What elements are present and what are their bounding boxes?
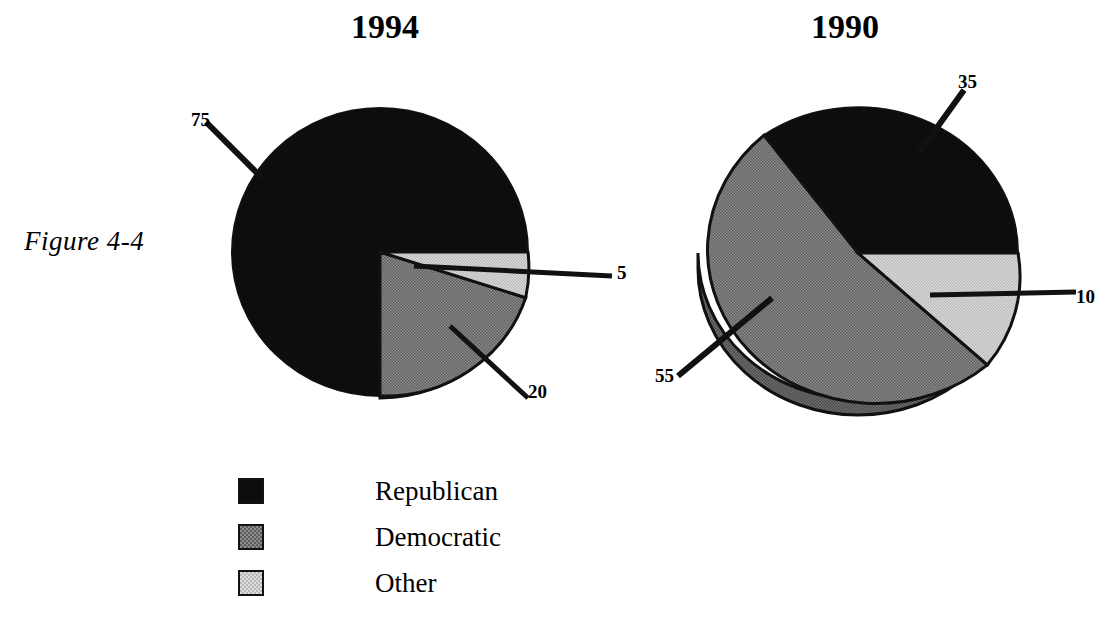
pie-1990-callout-10: 10 xyxy=(1076,287,1095,306)
legend-swatch-other-icon xyxy=(238,570,264,596)
pie-1990-leader-10 xyxy=(930,292,1076,295)
pie-chart-1990 xyxy=(630,80,1109,430)
legend-swatch-republican-icon xyxy=(238,478,264,504)
pie-title-1994: 1994 xyxy=(351,8,419,46)
pie-1990-callout-55: 55 xyxy=(655,366,674,385)
legend-label-other: Other xyxy=(375,568,436,599)
legend: Republican Democratic Other xyxy=(238,468,658,606)
legend-swatch-democratic-icon xyxy=(238,524,264,550)
pie-1990-callout-35: 35 xyxy=(958,72,977,91)
legend-item-republican: Republican xyxy=(238,468,658,514)
legend-item-democratic: Democratic xyxy=(238,514,658,560)
legend-label-republican: Republican xyxy=(375,476,498,507)
pie-1994-callout-20: 20 xyxy=(528,382,547,401)
pie-title-1990: 1990 xyxy=(811,8,879,46)
pie-chart-1994 xyxy=(150,80,670,430)
legend-item-other: Other xyxy=(238,560,658,606)
legend-label-democratic: Democratic xyxy=(375,522,501,553)
pie-1994-callout-5: 5 xyxy=(617,263,627,282)
pie-1994-callout-75: 75 xyxy=(191,110,210,129)
figure-caption: Figure 4-4 xyxy=(24,226,144,257)
figure-canvas: Figure 4-4 1994 1990 xyxy=(0,0,1109,634)
pie-1994-leader-75 xyxy=(206,122,262,178)
